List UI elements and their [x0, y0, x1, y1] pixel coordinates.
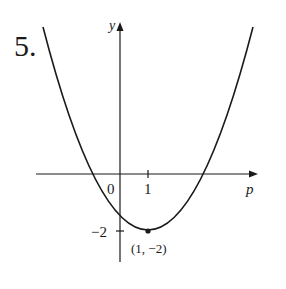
- y-tick-label-neg2: −2: [91, 224, 107, 240]
- parabola-chart: 5. y p 0 1 −2 (1, −2): [0, 0, 286, 289]
- y-axis-label: y: [107, 18, 116, 33]
- x-axis-arrow-icon: [249, 171, 258, 178]
- vertex-label: (1, −2): [131, 241, 167, 256]
- x-axis-label: p: [245, 181, 254, 197]
- x-tick-label-1: 1: [144, 181, 152, 197]
- vertex-point: [145, 228, 150, 233]
- parabola-curve: [43, 27, 253, 230]
- y-axis-arrow-icon: [117, 22, 124, 31]
- problem-number: 5.: [14, 29, 37, 62]
- origin-label: 0: [107, 181, 115, 197]
